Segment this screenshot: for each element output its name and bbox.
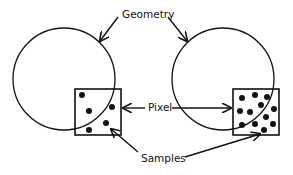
geometry-label: Geometry — [122, 8, 174, 20]
geometry-arrow-left — [100, 17, 118, 41]
sample-dot — [247, 109, 253, 115]
sample-dot — [263, 114, 269, 120]
sample-dot — [252, 92, 258, 98]
samples-label: Samples — [141, 152, 186, 164]
sample-dot — [261, 127, 267, 133]
sample-dot — [79, 92, 85, 98]
sample-dot — [264, 94, 270, 100]
pixel-label: Pixel — [148, 101, 172, 113]
sample-dot — [86, 127, 92, 133]
sample-dot — [86, 108, 92, 114]
sample-dot — [271, 106, 277, 112]
samples-arrow-right — [185, 134, 260, 157]
geometry-circle-left — [13, 28, 115, 130]
sample-dot — [258, 102, 264, 108]
sample-dot — [109, 104, 115, 110]
sample-dot — [270, 121, 276, 127]
geometry-circle-right — [172, 28, 274, 130]
sample-dot — [239, 122, 245, 128]
geometry-arrow-right — [168, 17, 187, 41]
sampling-diagram: Geometry Pixel Samples — [0, 0, 293, 175]
sample-dot — [239, 95, 245, 101]
sample-dot — [237, 108, 243, 114]
right-panel — [172, 28, 279, 135]
left-panel — [13, 28, 121, 135]
sample-dot — [252, 121, 258, 127]
samples-left — [79, 92, 115, 133]
samples-right — [237, 92, 277, 133]
sample-dot — [103, 120, 109, 126]
samples-arrow-left — [111, 129, 138, 152]
